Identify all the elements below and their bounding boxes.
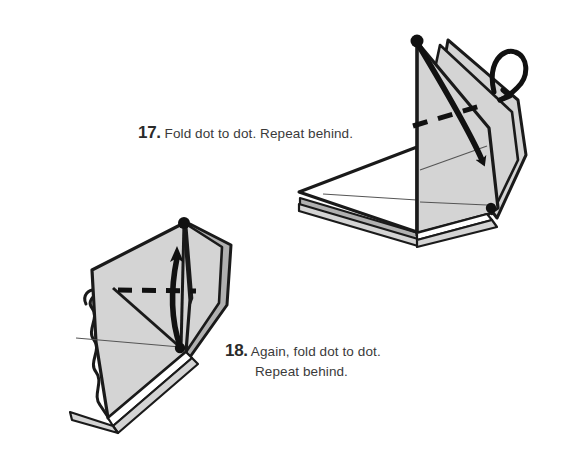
step-18-caption: 18. Again, fold dot to dot.Repeat behind… (225, 341, 381, 382)
step-17-caption: 17. Fold dot to dot. Repeat behind. (138, 123, 353, 144)
dot-bottom-right (486, 203, 496, 213)
step-18-text-line1: Again, fold dot to dot. (251, 344, 381, 359)
dot-top (411, 35, 424, 48)
step-17-text: Fold dot to dot. Repeat behind. (165, 126, 353, 141)
origami-diagram-canvas (0, 0, 574, 473)
diagram-page: 17. Fold dot to dot. Repeat behind. 18. … (0, 0, 574, 473)
step-18-number: 18. (225, 341, 248, 360)
dot-top (178, 217, 190, 229)
step-18-text-line2: Repeat behind. (225, 362, 381, 382)
dot-bottom (175, 343, 185, 353)
figure-step-18 (70, 217, 231, 433)
step-17-number: 17. (138, 123, 161, 142)
